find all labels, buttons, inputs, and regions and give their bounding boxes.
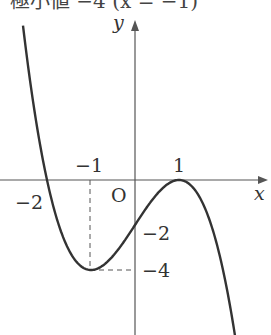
y-axis-arrow-icon (131, 20, 139, 31)
tick-x-neg2: −2 (15, 191, 43, 213)
tick-x-pos1: 1 (173, 154, 185, 176)
tick-y-neg4: −4 (142, 259, 170, 281)
origin-label: O (111, 184, 127, 206)
header-text: 極小値 −4 (x = −1) (10, 0, 198, 13)
tick-x-neg1: −1 (75, 154, 103, 176)
tick-y-neg2: −2 (142, 222, 170, 244)
cubic-graph: 極小値 −4 (x = −1) y x O −1 1 −2 −2 −4 (0, 0, 271, 335)
y-axis-label: y (112, 11, 124, 33)
x-axis-label: x (254, 182, 265, 204)
